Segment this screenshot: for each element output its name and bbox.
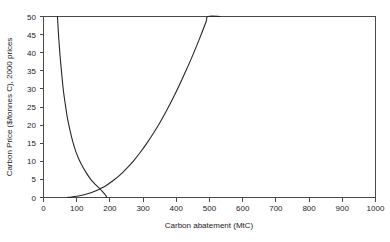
y-tick-label-5: 5 — [32, 175, 37, 184]
y-tick-label-15: 15 — [27, 139, 36, 148]
x-axis-title: Carbon abatement (MtC) — [165, 221, 254, 230]
y-tick-label-50: 50 — [27, 13, 36, 22]
x-tick-label-600: 600 — [236, 204, 250, 213]
y-tick-label-35: 35 — [27, 67, 36, 76]
y-axis-ticks: 0 5 10 15 20 25 30 35 40 45 50 — [27, 13, 43, 203]
y-axis-title: Carbon Price ($/tonnes C), 2000 prices — [5, 38, 14, 177]
x-axis-ticks: 0 100 200 300 400 500 600 700 800 900 10… — [41, 198, 385, 214]
y-tick-label-45: 45 — [27, 31, 36, 40]
y-tick-label-40: 40 — [27, 49, 36, 58]
marginal-benefit-curve — [57, 17, 106, 198]
axis-frame — [44, 17, 376, 198]
x-tick-label-100: 100 — [70, 204, 84, 213]
x-tick-label-800: 800 — [302, 204, 316, 213]
data-series-group — [57, 16, 220, 197]
x-tick-label-300: 300 — [136, 204, 150, 213]
x-tick-label-400: 400 — [170, 204, 184, 213]
y-tick-label-10: 10 — [27, 157, 36, 166]
marginal-cost-curve — [67, 16, 220, 197]
y-tick-label-0: 0 — [32, 194, 37, 203]
y-tick-label-20: 20 — [27, 121, 36, 130]
x-tick-label-900: 900 — [336, 204, 350, 213]
chart-figure: 0 5 10 15 20 25 30 35 40 45 50 0 1 — [0, 0, 390, 242]
x-tick-label-500: 500 — [203, 204, 217, 213]
x-tick-label-700: 700 — [269, 204, 283, 213]
y-tick-label-30: 30 — [27, 85, 36, 94]
x-tick-label-200: 200 — [103, 204, 117, 213]
x-tick-label-0: 0 — [41, 204, 46, 213]
x-tick-label-1000: 1000 — [367, 204, 385, 213]
y-tick-label-25: 25 — [27, 103, 36, 112]
chart-plot: 0 5 10 15 20 25 30 35 40 45 50 0 1 — [0, 0, 390, 242]
